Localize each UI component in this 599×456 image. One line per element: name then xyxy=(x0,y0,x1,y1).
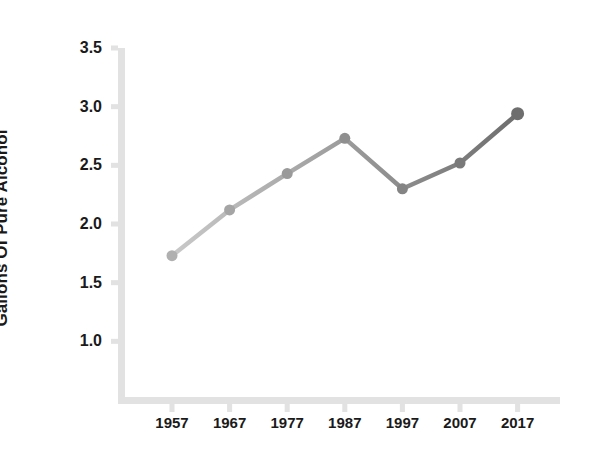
y-tick-mark xyxy=(111,104,118,109)
y-tick-mark xyxy=(111,280,118,285)
x-tick-mark xyxy=(170,404,175,412)
x-tick-mark xyxy=(285,404,290,412)
x-tick-mark xyxy=(458,404,463,412)
data-point-marker xyxy=(511,107,524,120)
data-point-marker xyxy=(455,157,466,168)
data-point-marker xyxy=(167,250,178,261)
y-tick-mark xyxy=(111,339,118,344)
x-tick-mark xyxy=(400,404,405,412)
data-point-marker xyxy=(282,168,293,179)
data-point-marker xyxy=(397,183,408,194)
y-tick-mark xyxy=(111,46,118,51)
plot-area xyxy=(0,0,599,456)
y-axis-spine xyxy=(118,48,125,404)
y-tick-mark xyxy=(111,163,118,168)
data-markers xyxy=(167,107,525,261)
axis-ticks xyxy=(111,46,520,413)
line-chart: Gallons Of Pure Alcohol 3.53.02.52.01.51… xyxy=(0,0,599,456)
data-point-marker xyxy=(224,204,235,215)
x-tick-mark xyxy=(515,404,520,412)
x-tick-mark xyxy=(342,404,347,412)
x-axis-spine xyxy=(118,397,560,404)
x-tick-mark xyxy=(227,404,232,412)
axis-spines xyxy=(118,48,560,404)
data-point-marker xyxy=(339,133,350,144)
y-tick-mark xyxy=(111,222,118,227)
